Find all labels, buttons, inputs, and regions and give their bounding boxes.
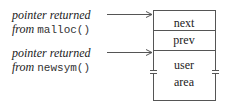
malloc-pointer-label: pointer returned <box>12 8 91 22</box>
field-prev: prev <box>153 33 215 47</box>
malloc-source-label: from malloc() <box>12 22 90 37</box>
user-area-line2: area <box>153 75 215 89</box>
memory-block-diagram: pointer returned from malloc() pointer r… <box>0 0 227 106</box>
field-next: next <box>153 16 215 30</box>
user-area-line1: user <box>153 58 215 72</box>
newsym-source-label: from newsym() <box>12 60 90 75</box>
newsym-pointer-label: pointer returned <box>12 46 91 60</box>
